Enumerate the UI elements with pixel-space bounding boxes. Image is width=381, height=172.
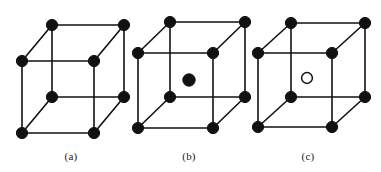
corner-atom xyxy=(118,19,129,30)
corner-atom xyxy=(16,55,27,66)
panel-label-a: (a) xyxy=(65,150,78,163)
center-atom-filled xyxy=(183,74,195,86)
corner-atom xyxy=(132,47,143,58)
corner-atom xyxy=(359,17,370,28)
corner-atom xyxy=(252,47,263,58)
cube-edge xyxy=(22,97,52,133)
center-atom-hollow xyxy=(302,73,313,84)
cube-edge xyxy=(332,97,365,127)
cube-edge xyxy=(138,22,170,53)
corner-atom xyxy=(164,16,175,27)
corner-atom xyxy=(239,16,250,27)
corner-atom xyxy=(118,91,129,102)
lattice-panel-b: (b) xyxy=(132,16,250,163)
cube-edge xyxy=(94,97,124,133)
cube-edge xyxy=(213,97,245,128)
lattice-panel-a: (a) xyxy=(16,19,129,163)
cube-edges-a xyxy=(22,25,124,133)
corner-atom xyxy=(239,91,250,102)
panel-label-c: (c) xyxy=(302,150,315,163)
cube-edge xyxy=(332,23,365,53)
cube-edge xyxy=(258,23,291,53)
corner-atom xyxy=(207,122,218,133)
corner-atoms-a xyxy=(16,19,129,138)
corner-atom xyxy=(326,47,337,58)
crystal-lattice-figure: (a)(b)(c) xyxy=(0,0,381,172)
corner-atom xyxy=(285,91,296,102)
cube-edge xyxy=(94,25,124,61)
panels-root: (a)(b)(c) xyxy=(16,16,370,163)
cube-edge xyxy=(138,97,170,128)
corner-atom xyxy=(16,127,27,138)
corner-atom xyxy=(285,17,296,28)
corner-atom xyxy=(164,91,175,102)
panel-label-b: (b) xyxy=(182,150,196,163)
cube-edge xyxy=(22,25,52,61)
corner-atom xyxy=(252,121,263,132)
corner-atom xyxy=(46,91,57,102)
corner-atom xyxy=(88,55,99,66)
cube-edge xyxy=(213,22,245,53)
corner-atom xyxy=(132,122,143,133)
corner-atom xyxy=(46,19,57,30)
corner-atom xyxy=(88,127,99,138)
cube-edge xyxy=(258,97,291,127)
corner-atom xyxy=(207,47,218,58)
corner-atom xyxy=(359,91,370,102)
lattice-panel-c: (c) xyxy=(252,17,370,163)
corner-atom xyxy=(326,121,337,132)
